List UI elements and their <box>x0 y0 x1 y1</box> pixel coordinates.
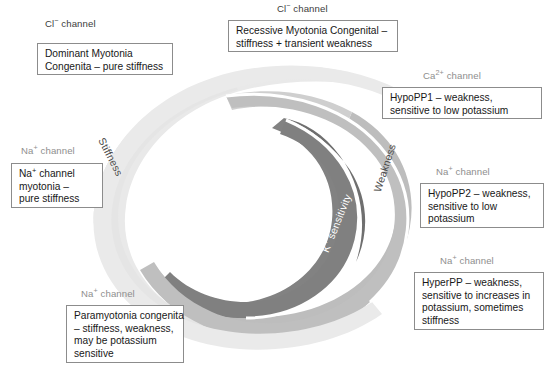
channel-caption-na-myotonia: Na+ channel <box>21 145 75 156</box>
diagram-canvas: Stiffness Weakness K+ sensitivity Cl− ch… <box>0 0 548 371</box>
info-box-hyperpp[interactable]: HyperPP – weakness, sensitive to increas… <box>414 272 544 330</box>
channel-caption-na-hypopp2: Na+ channel <box>436 166 490 177</box>
channel-caption-cl-dominant: Cl− channel <box>45 18 96 29</box>
channel-caption-na-hyperpp: Na+ channel <box>440 255 494 266</box>
info-box-recessive-myotonia-congenital[interactable]: Recessive Myotonia Congenital – stiffnes… <box>228 20 398 52</box>
info-box-na-channel-myotonia[interactable]: Na+ channel myotonia – pure stiffness <box>11 163 103 208</box>
channel-caption-na-paramyotonia: Na+ channel <box>81 288 135 299</box>
info-box-dominant-myotonia-congenita[interactable]: Dominant Myotonia Congenita – pure stiff… <box>37 43 173 75</box>
info-box-paramyotonia-congenita[interactable]: Paramyotonia congenita – stiffness, weak… <box>66 305 184 363</box>
spiral-core <box>164 138 328 298</box>
channel-caption-cl-recessive: Cl− channel <box>277 3 328 14</box>
info-box-hypopp2[interactable]: HypoPP2 – weakness, sensitive to low pot… <box>420 183 544 228</box>
info-box-hypopp1[interactable]: HypoPP1 – weakness, sensitive to low pot… <box>382 87 542 119</box>
channel-caption-ca-hypopp1: Ca2+ channel <box>423 70 481 81</box>
info-box-line-na-channel: Na+ channel <box>19 168 96 181</box>
